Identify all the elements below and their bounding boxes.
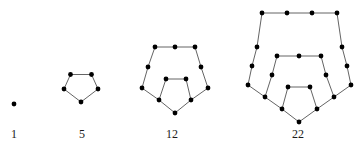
pentagon-diagram-svg: [0, 0, 358, 147]
lattice-dot: [255, 45, 260, 50]
figure-count-label: 22: [292, 128, 304, 140]
lattice-dot: [62, 87, 67, 92]
lattice-dot: [199, 65, 204, 70]
figure-count-label: 12: [166, 128, 178, 140]
pentagon-edge: [142, 67, 148, 88]
lattice-dot: [340, 45, 345, 50]
lattice-dot: [146, 65, 151, 70]
lattice-dot: [332, 95, 337, 100]
lattice-dot: [297, 54, 302, 59]
lattice-dot: [310, 11, 315, 16]
lattice-dot: [335, 11, 340, 16]
pentagon-edge: [159, 79, 166, 100]
lattice-dot: [164, 77, 169, 82]
pentagon-edge: [175, 100, 191, 113]
lattice-dot: [263, 95, 268, 100]
lattice-dot: [275, 54, 280, 59]
edges-layer: [64, 13, 351, 122]
lattice-dot: [173, 111, 178, 116]
pentagon-edge: [265, 75, 272, 97]
pentagon-edge: [265, 97, 282, 109]
pentagon-edge: [186, 79, 191, 100]
pentagon-edge: [148, 47, 155, 67]
pentagon-edge: [334, 85, 351, 97]
figure-12-edges: [142, 47, 208, 113]
pentagon-edge: [326, 75, 334, 97]
pentagon-edge: [248, 85, 265, 97]
lattice-dot: [173, 45, 178, 50]
lattice-dot: [349, 83, 354, 88]
lattice-dot: [297, 120, 302, 125]
figure-1-dots: [12, 102, 17, 107]
figure-22-edges: [248, 13, 351, 122]
lattice-dot: [79, 100, 84, 105]
pentagon-edge: [337, 13, 342, 47]
lattice-dot: [68, 72, 73, 77]
pentagon-edge: [347, 66, 351, 85]
lattice-dot: [153, 45, 158, 50]
lattice-dot: [308, 85, 313, 90]
lattice-dot: [286, 85, 291, 90]
pentagonal-numbers-figure: 151222: [0, 0, 358, 147]
pentagon-edge: [81, 89, 98, 102]
lattice-dot: [260, 11, 265, 16]
pentagon-edge: [272, 56, 277, 75]
pentagon-edge: [299, 109, 317, 122]
lattice-dot: [246, 83, 251, 88]
lattice-dot: [345, 64, 350, 69]
pentagon-edge: [321, 56, 326, 75]
pentagon-edge: [201, 67, 208, 88]
lattice-dot: [315, 107, 320, 112]
figure-22-dots: [246, 11, 354, 125]
figure-count-label: 1: [11, 128, 17, 140]
lattice-dot: [193, 45, 198, 50]
lattice-dot: [206, 86, 211, 91]
lattice-dot: [189, 98, 194, 103]
pentagon-edge: [142, 88, 159, 100]
lattice-dot: [89, 72, 94, 77]
lattice-dot: [12, 102, 17, 107]
pentagon-edge: [317, 97, 334, 109]
lattice-dot: [280, 107, 285, 112]
figure-5-dots: [62, 72, 101, 104]
pentagon-edge: [257, 13, 262, 47]
lattice-dot: [285, 11, 290, 16]
pentagon-edge: [310, 87, 317, 109]
lattice-dot: [96, 87, 101, 92]
lattice-dot: [324, 73, 329, 78]
pentagon-edge: [342, 47, 347, 66]
pentagon-edge: [191, 88, 208, 100]
pentagon-edge: [252, 47, 257, 66]
lattice-dot: [250, 64, 255, 69]
figure-12-dots: [140, 45, 211, 116]
figure-count-label: 5: [79, 128, 85, 140]
figure-5-edges: [64, 75, 98, 103]
pentagon-edge: [282, 109, 299, 122]
lattice-dot: [319, 54, 324, 59]
lattice-dot: [157, 98, 162, 103]
pentagon-edge: [282, 87, 288, 109]
pentagon-edge: [195, 47, 201, 67]
lattice-dot: [270, 73, 275, 78]
lattice-dot: [140, 86, 145, 91]
lattice-dot: [184, 77, 189, 82]
pentagon-edge: [248, 66, 252, 85]
pentagon-edge: [64, 89, 81, 102]
pentagon-edge: [159, 100, 175, 113]
